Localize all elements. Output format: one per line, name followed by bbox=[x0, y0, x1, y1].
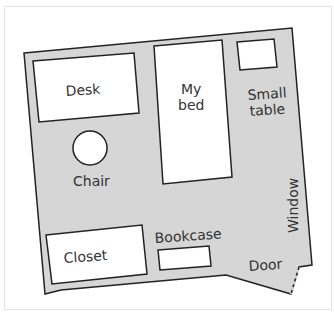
desk-label: Desk bbox=[65, 81, 102, 99]
window-label: Window bbox=[285, 178, 301, 233]
bookcase bbox=[158, 246, 211, 270]
door-label: Door bbox=[248, 256, 283, 274]
closet-label: Closet bbox=[63, 247, 108, 266]
chair bbox=[73, 131, 107, 165]
chair-label: Chair bbox=[73, 173, 110, 189]
small-table bbox=[237, 39, 277, 70]
bed-label-line2: bed bbox=[178, 97, 204, 113]
floor-plan: Desk My bed Small table Chair Closet Boo… bbox=[0, 0, 334, 314]
bed-label-line1: My bbox=[181, 81, 201, 97]
small-table-label-line2: table bbox=[249, 101, 285, 119]
